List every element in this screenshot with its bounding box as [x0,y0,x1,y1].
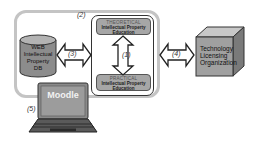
database-label: WEB Intellectual Property DB [20,44,56,72]
db-line-4: DB [20,65,56,72]
label-5: (5) [27,105,36,112]
tlo-line-1: Technology [200,45,237,52]
db-line-2: Intellectual [20,51,56,58]
db-line-1: WEB [20,44,56,51]
label-4: (4) [172,50,181,57]
diagram-shapes [0,0,271,148]
label-1: (1) [122,51,131,58]
moodle-screen-label: Moodle [41,90,85,100]
label-3: (3) [68,50,77,57]
tlo-line-2: Licensing [200,52,237,59]
tlo-line-3: Organization [200,59,237,66]
tlo-label: Technology Licensing Organization [200,45,237,66]
db-line-3: Property [20,58,56,65]
